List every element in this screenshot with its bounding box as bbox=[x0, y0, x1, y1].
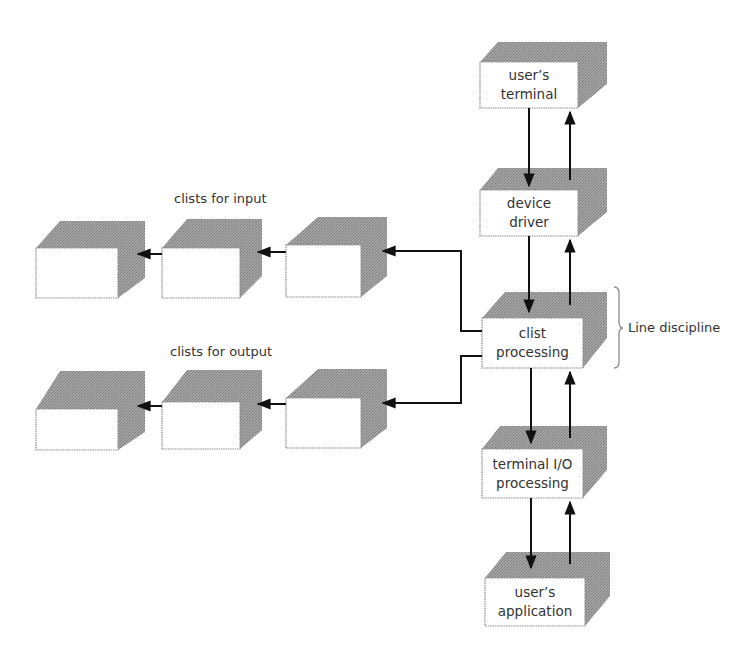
clist-output-box-2 bbox=[162, 370, 262, 449]
arrow-clist-to-output bbox=[383, 356, 482, 403]
clists-for-input-label: clists for input bbox=[174, 191, 267, 206]
clist-output-box-1 bbox=[36, 371, 145, 450]
box-users-application bbox=[485, 552, 610, 626]
line-discipline-brace bbox=[614, 287, 623, 368]
box-terminal-io-processing bbox=[482, 426, 607, 498]
clist-input-box-3 bbox=[286, 217, 387, 297]
clist-input-box-2 bbox=[162, 219, 262, 298]
arrow-clist-to-input bbox=[383, 251, 482, 331]
clist-output-box-3 bbox=[286, 369, 387, 448]
line-discipline-label: Line discipline bbox=[628, 320, 720, 335]
box-device-driver bbox=[480, 168, 607, 236]
box-users-terminal bbox=[480, 42, 607, 108]
box-clist-processing bbox=[482, 292, 607, 368]
clists-for-output-label: clists for output bbox=[170, 344, 272, 359]
clist-input-box-1 bbox=[36, 221, 145, 298]
